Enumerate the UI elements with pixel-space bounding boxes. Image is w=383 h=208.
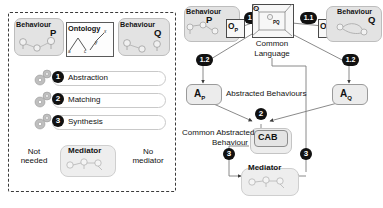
diagram-canvas: Behaviour P Ontology a c y x Behaviour Q <box>0 0 383 208</box>
right-mediator-graph <box>0 0 383 208</box>
